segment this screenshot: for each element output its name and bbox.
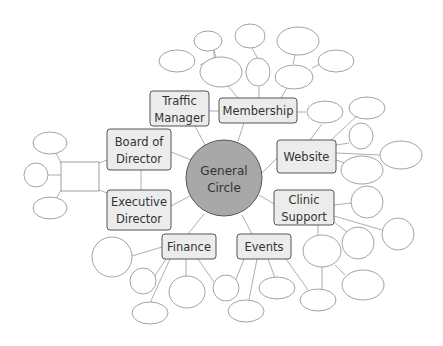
ellipse — [318, 50, 354, 72]
ellipse — [228, 300, 264, 322]
ellipse — [349, 97, 385, 119]
node-board-of-director[interactable]: Board of Director — [107, 129, 171, 170]
ellipse — [200, 57, 242, 87]
ellipse — [169, 276, 205, 308]
mind-map-diagram: Traffic Manager Membership Board of Dire… — [0, 0, 443, 346]
node-clinic-support[interactable]: Clinic Support — [274, 190, 334, 225]
node-executive-director[interactable]: Executive Director — [107, 190, 171, 230]
ellipse — [33, 197, 67, 219]
node-membership[interactable]: Membership — [219, 98, 297, 123]
node-label: Executive — [111, 195, 167, 209]
node-label: Events — [245, 240, 284, 254]
ellipse — [341, 156, 383, 184]
node-label: Membership — [222, 104, 293, 118]
node-label: Finance — [167, 240, 211, 254]
ellipse — [300, 289, 336, 311]
node-label: Website — [284, 150, 330, 164]
node-label: Traffic — [161, 94, 197, 108]
ellipse — [246, 58, 270, 86]
ellipse — [307, 101, 343, 123]
node-label: Director — [116, 212, 162, 226]
node-label: Support — [281, 210, 327, 224]
center-label: General — [200, 164, 247, 178]
ellipse — [349, 123, 373, 149]
center-label: Circle — [207, 181, 241, 195]
empty-rectangle — [61, 162, 99, 191]
ellipse — [92, 237, 132, 277]
ellipse — [235, 24, 265, 48]
node-label: Director — [116, 152, 162, 166]
ellipse — [24, 163, 48, 187]
node-general-circle[interactable]: General Circle — [186, 140, 262, 216]
node-label: Clinic — [288, 193, 319, 207]
ellipse — [277, 27, 319, 55]
ellipse — [132, 302, 168, 324]
node-website[interactable]: Website — [277, 140, 336, 173]
ellipse — [380, 141, 422, 169]
ellipse — [159, 50, 195, 72]
ellipse — [275, 65, 313, 89]
ellipse — [213, 275, 239, 301]
ellipse — [303, 235, 341, 267]
node-label: Board of — [115, 135, 164, 149]
ellipse — [194, 31, 222, 51]
node-events[interactable]: Events — [237, 234, 291, 259]
ellipse — [382, 218, 414, 250]
ellipse — [33, 132, 67, 154]
node-label: Manager — [154, 111, 205, 125]
ellipse — [342, 227, 374, 259]
node-finance[interactable]: Finance — [162, 234, 216, 259]
ellipse — [259, 277, 295, 299]
ellipse — [130, 268, 156, 294]
ellipse — [351, 186, 383, 218]
ellipse — [342, 270, 384, 300]
node-traffic-manager[interactable]: Traffic Manager — [150, 91, 209, 126]
